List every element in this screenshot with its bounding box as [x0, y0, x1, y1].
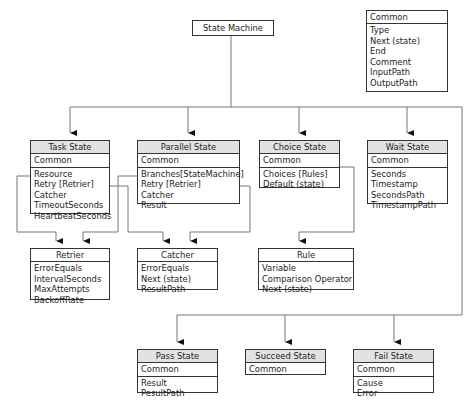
- parallel-common: Common: [138, 154, 239, 168]
- retrier-field: IntervalSeconds: [34, 274, 106, 285]
- state-machine-label: State Machine: [203, 23, 263, 33]
- task-field: Retry [Retrier]: [34, 179, 106, 190]
- succeed-common: Common: [246, 363, 325, 376]
- catcher-field: ErrorEquals: [141, 263, 214, 274]
- wait-state-title: Wait State: [368, 141, 447, 154]
- wait-field: Seconds: [371, 169, 444, 180]
- wait-field: SecondsPath: [371, 190, 444, 201]
- common-fields-box: Common Type Next (state) End Comment Inp…: [366, 10, 448, 92]
- catcher-box: Catcher ErrorEquals Next (state) ResultP…: [137, 248, 218, 290]
- succeed-state-title: Succeed State: [246, 350, 325, 363]
- common-field: OutputPath: [370, 78, 444, 89]
- task-field: Resource: [34, 169, 106, 180]
- wait-field: TimestampPath: [371, 200, 444, 211]
- rule-field: Next (state): [262, 284, 350, 295]
- common-field: Type: [370, 25, 444, 36]
- retrier-field: MaxAttempts: [34, 284, 106, 295]
- parallel-state-title: Parallel State: [138, 141, 239, 154]
- task-state-title: Task State: [31, 141, 109, 154]
- task-field: Catcher: [34, 190, 106, 201]
- parallel-field: Result: [141, 200, 236, 211]
- common-field: Next (state): [370, 36, 444, 47]
- common-field: End: [370, 46, 444, 57]
- task-field: TimeoutSeconds: [34, 200, 106, 211]
- pass-state-title: Pass State: [138, 350, 217, 363]
- common-field: InputPath: [370, 67, 444, 78]
- rule-field: Variable: [262, 263, 350, 274]
- rule-title: Rule: [259, 249, 353, 262]
- fail-field: Error: [357, 388, 430, 399]
- state-machine-root: State Machine: [192, 20, 274, 36]
- catcher-field: ResultPath: [141, 284, 214, 295]
- choice-common: Common: [260, 154, 339, 168]
- catcher-title: Catcher: [138, 249, 217, 262]
- choice-field: Default (state): [263, 179, 336, 190]
- retrier-field: BackoffRate: [34, 295, 106, 306]
- parallel-field: Branches[StateMachine]: [141, 169, 236, 180]
- retrier-field: ErrorEquals: [34, 263, 106, 274]
- fail-state-box: Fail State Common Cause Error: [353, 349, 434, 393]
- common-field: Comment: [370, 57, 444, 68]
- pass-field: Result: [141, 378, 214, 389]
- fail-common: Common: [354, 363, 433, 377]
- task-field: HeartbeatSeconds: [34, 211, 106, 222]
- wait-state-box: Wait State Common Seconds Timestamp Seco…: [367, 140, 448, 204]
- succeed-state-box: Succeed State Common: [245, 349, 326, 375]
- pass-common: Common: [138, 363, 217, 377]
- pass-field: PesultPath: [141, 388, 214, 399]
- choice-state-box: Choice State Common Choices [Rules] Defa…: [259, 140, 340, 188]
- parallel-field: Retry [Retrier]: [141, 179, 236, 190]
- retrier-box: Retrier ErrorEquals IntervalSeconds MaxA…: [30, 248, 110, 300]
- wait-field: Timestamp: [371, 179, 444, 190]
- parallel-field: Catcher: [141, 190, 236, 201]
- pass-state-box: Pass State Common Result PesultPath: [137, 349, 218, 393]
- choice-field: Choices [Rules]: [263, 169, 336, 180]
- fail-field: Cause: [357, 378, 430, 389]
- rule-box: Rule Variable Comparison Operator Next (…: [258, 248, 354, 290]
- common-box-title: Common: [367, 11, 447, 24]
- catcher-field: Next (state): [141, 274, 214, 285]
- fail-state-title: Fail State: [354, 350, 433, 363]
- retrier-title: Retrier: [31, 249, 109, 262]
- choice-state-title: Choice State: [260, 141, 339, 154]
- rule-field: Comparison Operator: [262, 274, 350, 285]
- wait-common: Common: [368, 154, 447, 168]
- task-common: Common: [31, 154, 109, 168]
- task-state-box: Task State Common Resource Retry [Retrie…: [30, 140, 110, 214]
- parallel-state-box: Parallel State Common Branches[StateMach…: [137, 140, 240, 204]
